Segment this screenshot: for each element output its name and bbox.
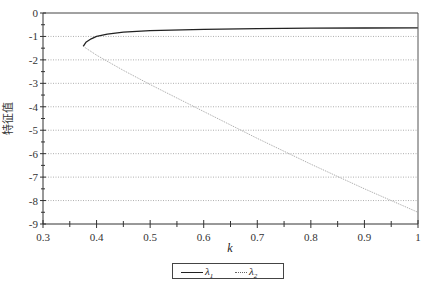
legend: λ1 λ2 <box>172 263 284 279</box>
x-tick-label: 0.6 <box>197 231 211 243</box>
series-line-2 <box>83 46 418 212</box>
y-tick-label: -3 <box>29 77 39 89</box>
y-tick-label: -1 <box>29 30 38 42</box>
x-tick-label: 0.3 <box>36 231 50 243</box>
legend-item-lambda2: λ2 <box>235 264 257 278</box>
y-tick-label: -2 <box>29 54 38 66</box>
y-tick-label: -6 <box>29 148 39 160</box>
axes <box>43 13 418 224</box>
x-axis-label: k <box>227 241 233 255</box>
y-tick-label: -5 <box>29 124 39 136</box>
solid-line-icon <box>181 272 203 273</box>
x-tick-label: 0.8 <box>304 231 318 243</box>
y-tick-label: 0 <box>33 7 39 19</box>
y-tick-label: -8 <box>29 195 39 207</box>
series-line-1 <box>83 28 418 47</box>
dotted-line-icon <box>235 272 247 273</box>
legend-item-lambda1: λ1 <box>181 264 213 278</box>
y-tick-label: -4 <box>29 101 39 113</box>
x-tick-label: 0.7 <box>250 231 264 243</box>
x-tick-label: 0.5 <box>143 231 157 243</box>
y-tick-label: -9 <box>29 218 39 230</box>
chart-svg: 0-1-2-3-4-5-6-7-8-90.30.40.50.60.70.80.9… <box>0 0 429 293</box>
gridlines <box>43 36 418 200</box>
x-tick-label: 0.9 <box>358 231 372 243</box>
y-tick-label: -7 <box>29 171 39 183</box>
x-tick-label: 0.4 <box>90 231 104 243</box>
y-axis-label: 特征值 <box>1 102 15 135</box>
x-tick-label: 1 <box>415 231 421 243</box>
legend-label: λ2 <box>249 265 257 277</box>
data-series <box>83 28 418 213</box>
ticks: 0-1-2-3-4-5-6-7-8-90.30.40.50.60.70.80.9… <box>29 7 421 243</box>
legend-label: λ1 <box>205 265 213 277</box>
